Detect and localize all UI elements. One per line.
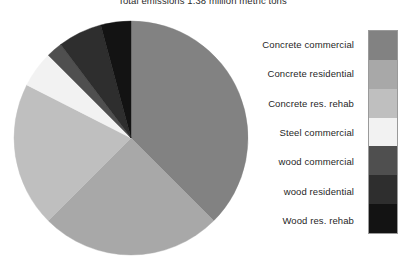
legend-color-swatch xyxy=(369,89,397,118)
pie-chart-figure: Total emissions 1.38 million metric tons… xyxy=(0,0,405,256)
legend-item-label: Concrete res. rehab xyxy=(248,89,360,118)
legend-color-swatch xyxy=(369,204,397,233)
legend-color-swatch xyxy=(369,146,397,175)
chart-title: Total emissions 1.38 million metric tons xyxy=(0,0,405,6)
legend-item-label: wood residential xyxy=(248,176,360,205)
legend-item-label: Steel commercial xyxy=(248,118,360,147)
legend-item-label: Wood res. rehab xyxy=(248,206,360,235)
legend-label-column: Concrete commercialConcrete residentialC… xyxy=(248,30,360,235)
pie-svg xyxy=(13,20,249,256)
legend-color-swatch xyxy=(369,31,397,60)
legend-item-label: wood commercial xyxy=(248,147,360,176)
chart-legend: Concrete commercialConcrete residentialC… xyxy=(248,30,405,235)
pie-plot-area xyxy=(13,20,249,256)
legend-item-label: Concrete residential xyxy=(248,59,360,88)
legend-color-swatch xyxy=(369,118,397,147)
legend-item-label: Concrete commercial xyxy=(248,30,360,59)
legend-swatch-column xyxy=(368,30,398,234)
legend-color-swatch xyxy=(369,60,397,89)
legend-color-swatch xyxy=(369,175,397,204)
pie-slice-group xyxy=(14,21,248,255)
